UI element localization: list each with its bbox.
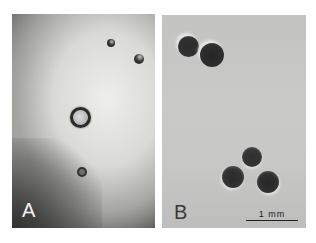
colony — [178, 36, 199, 57]
colony — [242, 147, 262, 167]
panel-label-a: A — [22, 200, 35, 220]
colony — [200, 43, 224, 67]
micrograph-panel-b: B 1 mm — [162, 15, 306, 228]
colony — [222, 166, 244, 188]
colony — [257, 171, 279, 193]
colony — [134, 54, 144, 64]
scale-bar: 1 mm — [246, 209, 298, 222]
panel-label-b: B — [174, 202, 187, 222]
colony — [70, 107, 91, 128]
colony — [107, 39, 115, 47]
micrograph-panel-a: A — [12, 14, 155, 228]
scale-bar-line — [246, 220, 298, 222]
colony — [77, 167, 87, 177]
scale-bar-label: 1 mm — [246, 209, 298, 219]
